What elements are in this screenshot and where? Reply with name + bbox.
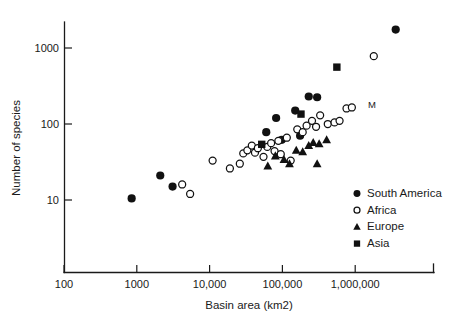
y-axis-ticks: 101001000 bbox=[35, 42, 72, 206]
marker-open-circle bbox=[283, 134, 290, 141]
marker-filled-circle bbox=[262, 128, 270, 136]
marker-filled-square bbox=[297, 110, 304, 117]
marker-open-circle bbox=[275, 137, 282, 144]
x-tick-label: 10,000 bbox=[193, 278, 227, 290]
marker-open-circle bbox=[268, 140, 275, 147]
y-tick-label: 1000 bbox=[35, 42, 59, 54]
marker-filled-circle bbox=[392, 25, 400, 33]
x-tick-label: 100 bbox=[55, 278, 73, 290]
legend-item-africa[interactable]: Africa bbox=[354, 204, 397, 216]
marker-filled-circle bbox=[354, 190, 361, 197]
marker-filled-triangle bbox=[353, 223, 360, 230]
marker-open-circle bbox=[299, 129, 306, 136]
marker-open-circle bbox=[179, 181, 186, 188]
plot-annotations: M bbox=[368, 99, 376, 110]
legend-item-label: Europe bbox=[367, 220, 404, 232]
marker-filled-triangle bbox=[263, 161, 272, 169]
annotation-label: M bbox=[368, 99, 376, 110]
y-axis-title: Number of species bbox=[10, 100, 22, 196]
legend-item-label: South America bbox=[367, 187, 442, 199]
marker-filled-triangle bbox=[315, 139, 324, 147]
series-africa bbox=[179, 53, 378, 198]
y-tick-label: 100 bbox=[41, 118, 59, 130]
legend-item-south-america[interactable]: South America bbox=[354, 187, 443, 199]
marker-open-circle bbox=[354, 207, 360, 213]
marker-open-circle bbox=[313, 123, 320, 130]
marker-filled-square bbox=[354, 240, 360, 246]
marker-open-circle bbox=[348, 104, 355, 111]
marker-open-circle bbox=[324, 121, 331, 128]
marker-filled-circle bbox=[156, 171, 164, 179]
marker-open-circle bbox=[187, 190, 194, 197]
legend: South AmericaAfricaEuropeAsia bbox=[353, 187, 442, 249]
data-points bbox=[128, 25, 400, 202]
scatter-plot-figure: 101001000 100100010,000100,0001,000,000 … bbox=[0, 0, 469, 326]
legend-item-label: Africa bbox=[367, 204, 397, 216]
legend-item-asia[interactable]: Asia bbox=[354, 237, 390, 249]
marker-filled-triangle bbox=[313, 159, 322, 167]
marker-filled-square bbox=[258, 141, 265, 148]
marker-filled-square bbox=[333, 63, 340, 70]
marker-open-circle bbox=[226, 165, 233, 172]
legend-item-europe[interactable]: Europe bbox=[353, 220, 404, 232]
series-south-america bbox=[128, 25, 400, 202]
marker-filled-circle bbox=[313, 93, 321, 101]
marker-filled-circle bbox=[168, 183, 176, 191]
marker-open-circle bbox=[336, 117, 343, 124]
marker-filled-triangle bbox=[292, 146, 301, 154]
legend-item-label: Asia bbox=[367, 237, 390, 249]
marker-open-circle bbox=[317, 112, 324, 119]
marker-open-circle bbox=[209, 157, 216, 164]
plot-canvas: 101001000 100100010,000100,0001,000,000 … bbox=[0, 0, 469, 326]
marker-open-circle bbox=[260, 153, 267, 160]
x-tick-label: 1000 bbox=[125, 278, 149, 290]
marker-filled-triangle bbox=[322, 135, 331, 143]
marker-filled-circle bbox=[305, 92, 313, 100]
marker-filled-circle bbox=[272, 114, 280, 122]
marker-open-circle bbox=[370, 53, 377, 60]
x-tick-label: 100,000 bbox=[263, 278, 303, 290]
marker-filled-circle bbox=[128, 194, 136, 202]
y-tick-label: 10 bbox=[47, 194, 59, 206]
x-tick-label: 1,000,000 bbox=[331, 278, 380, 290]
x-axis-title: Basin area (km2) bbox=[205, 299, 293, 311]
x-axis-ticks: 100100010,000100,0001,000,000 bbox=[55, 265, 380, 290]
marker-open-circle bbox=[236, 160, 243, 167]
